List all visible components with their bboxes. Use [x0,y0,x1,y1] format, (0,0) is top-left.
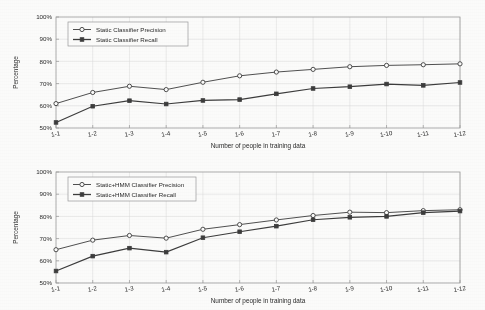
data-point-marker [54,121,58,125]
x-axis-tick-label: 1-2 [87,129,98,138]
data-point-marker [385,215,389,219]
x-axis-title: Number of people in training data [211,297,306,305]
x-axis-tick-label: 1-10 [379,129,393,138]
data-point-marker [384,211,388,215]
figure-page: 50%60%70%80%90%100%1-11-21-31-41-51-61-7… [0,0,485,310]
y-axis-tick-label: 100% [36,13,52,20]
data-point-marker [311,213,315,217]
data-point-marker [54,269,58,273]
x-axis-tick-label: 1-7 [271,284,282,293]
chart-panel-top: 50%60%70%80%90%100%1-11-21-31-41-51-61-7… [0,0,485,155]
y-axis-tick-label: 100% [36,168,52,175]
x-axis-tick-label: 1-9 [344,284,355,293]
data-point-marker [348,65,352,69]
data-point-marker [348,210,352,214]
x-axis-tick-label: 1-5 [197,129,208,138]
legend-label: Static Classifier Recall [96,36,158,43]
x-axis-tick-label: 1-1 [51,284,62,293]
chart-panel-bottom: 50%60%70%80%90%100%1-11-21-31-41-51-61-7… [0,155,485,310]
data-point-marker [238,98,242,102]
y-axis-tick-label: 70% [40,235,53,242]
data-point-marker [311,218,315,222]
y-axis-tick-label: 90% [40,190,53,197]
x-axis-tick-label: 1-12 [453,129,467,138]
legend-marker-circle-icon [80,182,84,186]
x-axis-tick-label: 1-11 [416,284,430,293]
static-hmm-classifier-plot: 50%60%70%80%90%100%1-11-21-31-41-51-61-7… [0,155,485,310]
data-point-marker [275,224,279,228]
data-point-marker [127,84,131,88]
data-point-marker [164,87,168,91]
legend-label: Static+HMM Classifier Recall [96,191,176,198]
data-point-marker [128,246,132,250]
data-point-marker [238,230,242,234]
x-axis-tick-label: 1-5 [197,284,208,293]
legend-marker-square-icon [80,38,84,42]
legend-label: Static+HMM Classifier Precision [96,181,185,188]
data-point-marker [421,211,425,215]
data-point-marker [458,81,462,85]
y-axis-title: Percentage [12,56,20,89]
x-axis-tick-label: 1-10 [379,284,393,293]
y-axis-tick-label: 60% [40,257,53,264]
x-axis-tick-label: 1-11 [416,129,430,138]
data-point-marker [238,74,242,78]
series-line [56,211,460,271]
x-axis-tick-label: 1-9 [344,129,355,138]
y-axis-title: Percentage [12,211,20,244]
y-axis-tick-label: 70% [40,80,53,87]
series-line [56,210,460,250]
data-point-marker [311,87,315,91]
x-axis-tick-label: 1-7 [271,129,282,138]
data-point-marker [274,70,278,74]
legend-marker-circle-icon [80,27,84,31]
x-axis-tick-label: 1-1 [51,129,62,138]
data-point-marker [458,62,462,66]
y-axis-tick-label: 80% [40,58,53,65]
data-point-marker [311,67,315,71]
data-point-marker [91,90,95,94]
x-axis-tick-label: 1-4 [161,284,172,293]
data-point-marker [91,254,95,258]
data-point-marker [384,63,388,67]
legend-marker-square-icon [80,193,84,197]
data-point-marker [54,248,58,252]
x-axis-tick-label: 1-3 [124,129,135,138]
data-point-marker [127,233,131,237]
data-point-marker [164,250,168,254]
data-point-marker [128,99,132,103]
data-point-marker [164,236,168,240]
x-axis-tick-label: 1-2 [87,284,98,293]
data-point-marker [164,102,168,106]
data-point-marker [201,99,205,103]
y-axis-tick-label: 90% [40,35,53,42]
data-point-marker [274,218,278,222]
data-point-marker [54,101,58,105]
data-point-marker [385,82,389,86]
data-point-marker [201,227,205,231]
x-axis-tick-label: 1-8 [308,284,319,293]
data-point-marker [238,223,242,227]
data-point-marker [201,80,205,84]
data-point-marker [458,209,462,213]
data-point-marker [91,238,95,242]
x-axis-title: Number of people in training data [211,142,306,150]
data-point-marker [91,104,95,108]
data-point-marker [421,63,425,67]
y-axis-tick-label: 80% [40,213,53,220]
x-axis-tick-label: 1-4 [161,129,172,138]
data-point-marker [421,84,425,88]
x-axis-tick-label: 1-12 [453,284,467,293]
x-axis-tick-label: 1-6 [234,129,245,138]
x-axis-tick-label: 1-3 [124,284,135,293]
y-axis-tick-label: 60% [40,102,53,109]
data-point-marker [201,236,205,240]
data-point-marker [348,85,352,89]
data-point-marker [275,92,279,96]
x-axis-tick-label: 1-6 [234,284,245,293]
legend-label: Static Classifier Precision [96,26,166,33]
static-classifier-plot: 50%60%70%80%90%100%1-11-21-31-41-51-61-7… [0,0,485,155]
data-point-marker [348,215,352,219]
x-axis-tick-label: 1-8 [308,129,319,138]
